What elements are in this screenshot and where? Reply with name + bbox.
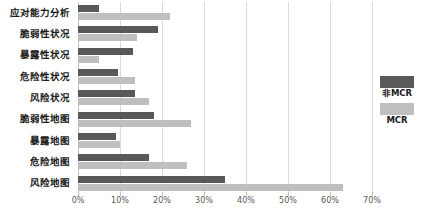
x-tick-label: 70% [363, 196, 381, 205]
category-axis-labels: 应对能力分析脆弱性状况暴露性状况危险性状况风险状况脆弱性地图暴露地图危险地图风险… [0, 2, 74, 194]
category-label: 风险状况 [30, 93, 70, 103]
plot-area [78, 2, 372, 194]
bar-series-2 [78, 184, 343, 191]
category-label: 暴露地图 [30, 136, 70, 146]
bar-series-1 [78, 90, 135, 97]
bar-series-2 [78, 34, 137, 41]
legend-swatch [380, 76, 414, 88]
category-label: 脆弱性地图 [20, 114, 70, 124]
bar-series-2 [78, 98, 149, 105]
bar-series-2 [78, 162, 187, 169]
category-label: 脆弱性状况 [20, 29, 70, 39]
bar-series-1 [78, 48, 133, 55]
bar-group [78, 45, 372, 66]
bar-series-2 [78, 120, 191, 127]
legend-item[interactable]: 非MCR [372, 76, 422, 98]
bar-series-1 [78, 5, 99, 12]
bar-series-1 [78, 69, 118, 76]
x-tick-label: 10% [111, 196, 129, 205]
bar-series-1 [78, 133, 116, 140]
bar-group [78, 173, 372, 194]
bar-series-2 [78, 13, 170, 20]
bar-series-2 [78, 77, 135, 84]
bar-group [78, 151, 372, 172]
x-tick-label: 40% [237, 196, 255, 205]
bar-series-1 [78, 154, 149, 161]
x-tick-label: 0% [72, 196, 85, 205]
bar-series-1 [78, 176, 225, 183]
x-tick-label: 20% [153, 196, 171, 205]
category-label: 风险地图 [30, 178, 70, 188]
bar-series-1 [78, 26, 158, 33]
bar-chart: 应对能力分析脆弱性状况暴露性状况危险性状况风险状况脆弱性地图暴露地图危险地图风险… [0, 0, 425, 223]
bar-group [78, 109, 372, 130]
category-label: 暴露性状况 [20, 50, 70, 60]
category-label: 危险地图 [30, 157, 70, 167]
bar-group [78, 66, 372, 87]
x-axis-ticks: 0%10%20%30%40%50%60%70% [78, 196, 372, 210]
x-tick-label: 60% [321, 196, 339, 205]
bar-series-2 [78, 56, 99, 63]
x-tick-label: 30% [195, 196, 213, 205]
bar-group [78, 23, 372, 44]
legend-item[interactable]: MCR [372, 103, 422, 125]
bar-group [78, 130, 372, 151]
bar-rows [78, 2, 372, 194]
legend-label: MCR [386, 116, 407, 125]
bar-series-2 [78, 141, 120, 148]
bar-group [78, 2, 372, 23]
x-tick-label: 50% [279, 196, 297, 205]
legend-swatch [380, 103, 414, 115]
chart-legend: 非MCRMCR [372, 76, 422, 124]
bar-series-1 [78, 112, 154, 119]
category-label: 应对能力分析 [10, 8, 70, 18]
bar-group [78, 87, 372, 108]
legend-label: 非MCR [382, 89, 412, 98]
category-label: 危险性状况 [20, 72, 70, 82]
